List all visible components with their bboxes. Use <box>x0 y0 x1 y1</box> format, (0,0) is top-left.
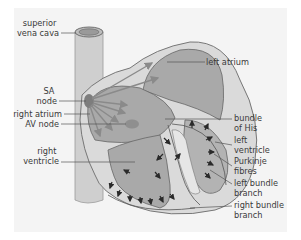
label-left-bundle-branch: left bundle branch <box>234 178 281 198</box>
heart-shape <box>80 42 257 214</box>
label-bundle-of-his: bundle of His <box>234 113 265 133</box>
label-purkinje-fibres: Purkinje fibres <box>234 156 269 176</box>
label-av-node: AV node <box>25 119 59 129</box>
heart-conduction-diagram: superior vena cava SA node right atrium … <box>0 0 301 240</box>
label-superior-vena-cava: superior vena cava <box>17 18 59 38</box>
av-node-shape <box>125 120 139 129</box>
label-right-atrium: right atrium <box>13 109 62 119</box>
label-left-atrium: left atrium <box>206 57 249 67</box>
label-sa-node: SA node <box>37 86 57 106</box>
label-right-ventricle: right ventricle <box>23 146 59 166</box>
label-right-bundle-branch: right bundle branch <box>234 200 287 220</box>
